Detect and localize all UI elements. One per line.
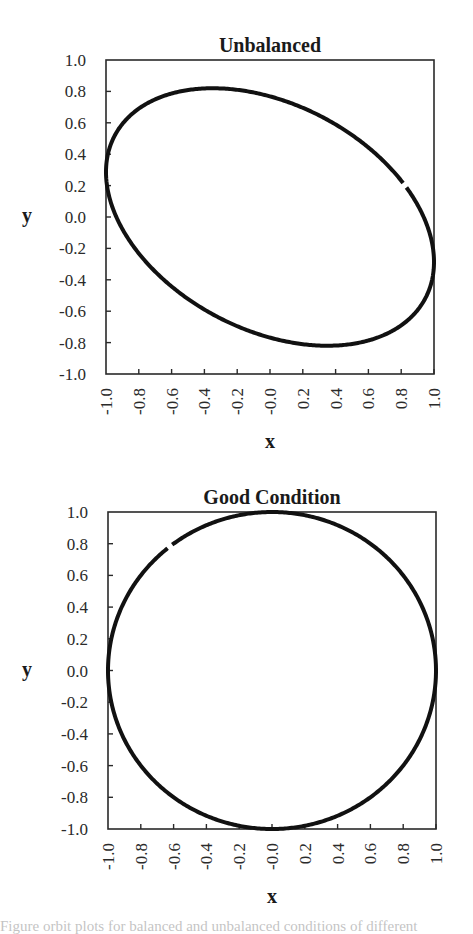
y-tick-label: -0.8 xyxy=(61,788,88,807)
y-tick-label: -0.2 xyxy=(61,693,88,712)
chart-title: Good Condition xyxy=(203,486,340,508)
figure-canvas: Unbalanced1.00.80.60.40.20.0-0.2-0.4-0.6… xyxy=(0,0,473,934)
y-tick-label: -0.4 xyxy=(61,725,88,744)
x-axis-label: x xyxy=(267,885,277,907)
x-axis: -1.0-0.8-0.6-0.4-0.2-0.00.20.40.60.81.0 xyxy=(97,369,444,415)
x-tick-label: -0.2 xyxy=(228,388,247,415)
y-tick-label: 1.0 xyxy=(65,51,86,70)
y-axis-label: y xyxy=(22,658,32,681)
chart-title: Unbalanced xyxy=(219,34,321,56)
y-axis: 1.00.80.60.40.20.0-0.2-0.4-0.6-0.8-1.0 xyxy=(61,503,113,839)
orbit-curve xyxy=(108,512,436,829)
chart-unbalanced: Unbalanced1.00.80.60.40.20.0-0.2-0.4-0.6… xyxy=(22,34,444,452)
plot-frame xyxy=(106,60,434,374)
x-tick-label: 0.4 xyxy=(329,843,348,865)
x-tick-label: -0.2 xyxy=(230,843,249,870)
x-tick-label: 0.6 xyxy=(359,388,378,409)
y-tick-label: -1.0 xyxy=(61,820,88,839)
y-tick-label: 0.6 xyxy=(67,566,88,585)
x-tick-label: -0.6 xyxy=(165,843,184,870)
x-tick-label: -0.0 xyxy=(263,843,282,870)
x-tick-label: 0.2 xyxy=(296,843,315,864)
x-tick-label: -0.8 xyxy=(132,843,151,870)
x-axis-label: x xyxy=(265,430,275,452)
x-tick-label: 0.2 xyxy=(294,388,313,409)
y-tick-label: -0.6 xyxy=(59,302,86,321)
y-tick-label: 0.2 xyxy=(67,630,88,649)
figure-caption-partial: Figure orbit plots for balanced and unba… xyxy=(0,918,473,934)
x-tick-label: -0.4 xyxy=(197,843,216,870)
y-tick-label: 0.8 xyxy=(67,535,88,554)
y-tick-label: -0.8 xyxy=(59,334,86,353)
x-tick-label: 0.8 xyxy=(392,388,411,409)
x-tick-label: 0.6 xyxy=(361,843,380,864)
y-axis: 1.00.80.60.40.20.0-0.2-0.4-0.6-0.8-1.0 xyxy=(59,51,111,384)
y-tick-label: -0.6 xyxy=(61,757,88,776)
x-tick-label: -0.6 xyxy=(163,388,182,415)
y-tick-label: 0.4 xyxy=(65,145,87,164)
y-tick-label: -1.0 xyxy=(59,365,86,384)
y-tick-label: 0.0 xyxy=(65,208,86,227)
x-tick-label: 0.4 xyxy=(327,388,346,410)
x-tick-label: 0.8 xyxy=(394,843,413,864)
x-tick-label: 1.0 xyxy=(427,843,446,864)
y-tick-label: 0.4 xyxy=(67,598,89,617)
x-tick-label: -1.0 xyxy=(97,388,116,415)
y-tick-label: -0.2 xyxy=(59,239,86,258)
y-axis-label: y xyxy=(22,204,32,227)
x-tick-label: -0.4 xyxy=(195,388,214,415)
x-tick-label: -0.0 xyxy=(261,388,280,415)
x-tick-label: 1.0 xyxy=(425,388,444,409)
chart-good-condition: Good Condition1.00.80.60.40.20.0-0.2-0.4… xyxy=(22,486,446,907)
orbit-curve xyxy=(106,88,434,345)
y-tick-label: 0.8 xyxy=(65,82,86,101)
x-tick-label: -1.0 xyxy=(99,843,118,870)
y-tick-label: 1.0 xyxy=(67,503,88,522)
y-tick-label: 0.0 xyxy=(67,662,88,681)
y-tick-label: -0.4 xyxy=(59,271,86,290)
x-tick-label: -0.8 xyxy=(130,388,149,415)
y-tick-label: 0.6 xyxy=(65,114,86,133)
y-tick-label: 0.2 xyxy=(65,177,86,196)
